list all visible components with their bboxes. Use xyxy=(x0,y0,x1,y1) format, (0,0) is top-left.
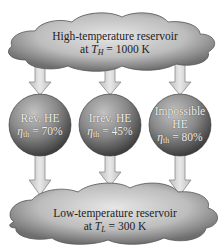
impossible-he-efficiency: ηth = 80% xyxy=(147,131,213,145)
impossible-he-name-line2: HE xyxy=(147,118,213,131)
irrev-he-efficiency: ηth = 45% xyxy=(79,125,141,139)
low-reservoir-label: Low-temperature reservoir at TL = 300 K xyxy=(20,207,210,234)
high-reservoir-title: High-temperature reservoir xyxy=(20,30,210,43)
rev-he-name: Rev. HE xyxy=(9,112,71,125)
high-reservoir-label: High-temperature reservoir at TH = 1000 … xyxy=(20,30,210,57)
low-reservoir-temperature: at TL = 300 K xyxy=(20,220,210,234)
impossible-he-label: Impossible HE ηth = 80% xyxy=(147,105,213,146)
high-reservoir-temperature: at TH = 1000 K xyxy=(20,43,210,57)
irrev-he-name: Irrev. HE xyxy=(79,112,141,125)
rev-he-efficiency: ηth = 70% xyxy=(9,125,71,139)
arrow-rev-to-low xyxy=(29,150,51,195)
impossible-he-name-line1: Impossible xyxy=(147,105,213,118)
irrev-he-label: Irrev. HE ηth = 45% xyxy=(79,112,141,139)
rev-he-label: Rev. HE ηth = 70% xyxy=(9,112,71,139)
low-reservoir-title: Low-temperature reservoir xyxy=(20,207,210,220)
